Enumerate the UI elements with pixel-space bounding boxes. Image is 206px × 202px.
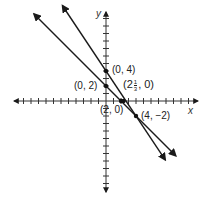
point-label-4-neg2: (4, −2) <box>141 110 170 121</box>
point-label-2-third-0: (213, 0) <box>123 78 154 92</box>
y-axis-label: y <box>96 8 101 19</box>
point-label-2-0: (2, 0) <box>100 104 123 115</box>
fraction: 13 <box>134 79 137 92</box>
point-marker <box>104 84 108 88</box>
point-marker <box>134 114 138 118</box>
frac-close: , 0) <box>138 78 154 90</box>
graph-lines <box>34 6 176 160</box>
frac-open: (2 <box>123 78 133 90</box>
fraction-denominator: 3 <box>134 86 137 92</box>
point-label-0-2: (0, 2) <box>74 80 97 91</box>
fraction-numerator: 1 <box>134 79 137 86</box>
x-axis-label: x <box>188 105 193 116</box>
point-marker <box>121 99 125 103</box>
point-label-0-4: (0, 4) <box>112 64 135 75</box>
point-marker <box>104 69 108 73</box>
coordinate-plane <box>0 0 206 202</box>
